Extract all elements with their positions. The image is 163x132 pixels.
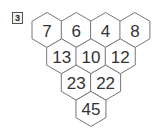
hex-value: 8 [130, 22, 139, 41]
hex-value: 23 [67, 74, 86, 93]
hex-value: 10 [81, 48, 100, 67]
hex-value: 45 [81, 100, 100, 119]
hex-value: 22 [96, 74, 115, 93]
hex-value: 7 [42, 22, 51, 41]
hex-value: 12 [111, 48, 130, 67]
hex-value: 13 [52, 48, 71, 67]
hex-value: 4 [101, 22, 110, 41]
hexagon-pyramid: 7648131012232245 [0, 0, 163, 132]
hex-value: 6 [72, 22, 81, 41]
